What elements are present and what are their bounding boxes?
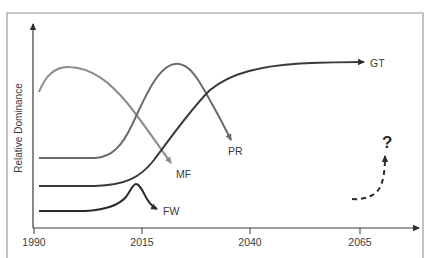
series-unknown-dashed-line [352, 156, 385, 199]
x-tick-label-2065: 2065 [348, 236, 372, 248]
series-gt-line [39, 62, 364, 186]
series-pr-line [39, 64, 231, 158]
chart: 1990 2015 2040 2065 Relative Dominance M… [0, 0, 429, 258]
y-axis-label: Relative Dominance [13, 83, 24, 173]
series-pr-label: PR [228, 145, 243, 157]
series-fw-label: FW [163, 205, 179, 217]
question-mark-label: ? [382, 133, 392, 152]
x-tick-label-2015: 2015 [130, 236, 154, 248]
series-gt-label: GT [370, 57, 385, 69]
series-mf-label: MF [176, 168, 191, 180]
series-mf-line [39, 67, 171, 163]
series-fw-line [39, 184, 157, 211]
x-tick-label-1990: 1990 [22, 236, 46, 248]
x-tick-label-2040: 2040 [238, 236, 262, 248]
chart-frame [7, 13, 423, 258]
